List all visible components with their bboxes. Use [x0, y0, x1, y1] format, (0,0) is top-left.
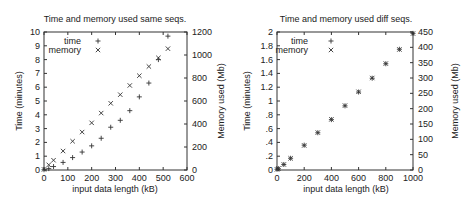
x-tick-label: 800 [378, 173, 393, 183]
y-axis-label: Time (minutes) [242, 71, 252, 131]
x-tick-label: 500 [156, 173, 171, 183]
chart-title: Time and memory used same seqs. [44, 14, 187, 24]
y2-tick-label: 150 [418, 119, 433, 129]
y2-tick-label: 1000 [192, 50, 212, 60]
x-tick-label: 300 [108, 173, 123, 183]
y-axis-label: Time (minutes) [14, 71, 24, 131]
y-tick-label: 4 [35, 110, 40, 120]
y2-tick-label: 250 [418, 88, 433, 98]
legend-label-memory: memory [275, 45, 308, 55]
y-tick-label: 1.4 [260, 68, 273, 78]
y-tick-label: 1.8 [260, 41, 273, 51]
y2-tick-label: 0 [192, 165, 197, 175]
x-tick-label: 0 [274, 173, 279, 183]
x-tick-label: 400 [132, 173, 147, 183]
y2-axis-label: Memory used (Mb) [450, 63, 460, 139]
y-tick-label: 1.2 [260, 82, 273, 92]
y2-tick-label: 400 [418, 42, 433, 52]
y-tick-label: 3 [35, 124, 40, 134]
chart-same-seqs: Time and memory used same seqs.010020030… [0, 0, 234, 206]
y-tick-label: 0 [35, 165, 40, 175]
y-tick-label: 9 [35, 41, 40, 51]
y2-tick-label: 1200 [192, 27, 212, 37]
y-tick-label: 5 [35, 96, 40, 106]
chart-same-seqs-canvas: Time and memory used same seqs.010020030… [0, 0, 234, 206]
y-tick-label: 8 [35, 55, 40, 65]
y-tick-label: .2 [265, 151, 273, 161]
y2-tick-label: 50 [418, 150, 428, 160]
legend: timememory [48, 36, 100, 55]
y-tick-label: 6 [35, 82, 40, 92]
x-tick-label: 200 [297, 173, 312, 183]
y-tick-label: 1.6 [260, 55, 273, 65]
y-tick-label: 1 [35, 151, 40, 161]
y2-tick-label: 200 [418, 104, 433, 114]
x-axis-label: input data length (kB) [72, 184, 158, 194]
chart-diff-seqs-canvas: Time and memory used diff seqs.020040060… [234, 0, 469, 206]
y2-tick-label: 600 [192, 96, 207, 106]
y-tick-label: .8 [265, 110, 273, 120]
y-tick-label: 2 [35, 137, 40, 147]
y-tick-label: .6 [265, 124, 273, 134]
y-tick-label: 2 [268, 27, 273, 37]
x-tick-label: 600 [351, 173, 366, 183]
y-tick-label: .4 [265, 137, 273, 147]
y-tick-label: 7 [35, 68, 40, 78]
y-tick-label: 0 [268, 165, 273, 175]
y2-tick-label: 350 [418, 58, 433, 68]
y2-tick-label: 800 [192, 73, 207, 83]
x-tick-label: 100 [60, 173, 75, 183]
y2-tick-label: 300 [418, 73, 433, 83]
x-axis-label: input data length (kB) [303, 184, 389, 194]
y2-tick-label: 450 [418, 27, 433, 37]
y2-tick-label: 200 [192, 142, 207, 152]
y2-axis-label: Memory used (Mb) [216, 63, 226, 139]
y2-tick-label: 0 [418, 165, 423, 175]
y-tick-label: 1 [268, 96, 273, 106]
y2-tick-label: 100 [418, 134, 433, 144]
legend: timememory [275, 36, 333, 55]
x-tick-label: 200 [84, 173, 99, 183]
x-tick-label: 0 [41, 173, 46, 183]
chart-title: Time and memory used diff seqs. [280, 14, 413, 24]
legend-label-memory: memory [48, 45, 81, 55]
y2-tick-label: 400 [192, 119, 207, 129]
x-tick-label: 400 [324, 173, 339, 183]
series-memory [42, 46, 170, 171]
y-tick-label: 10 [30, 27, 40, 37]
chart-diff-seqs: Time and memory used diff seqs.020040060… [234, 0, 468, 206]
